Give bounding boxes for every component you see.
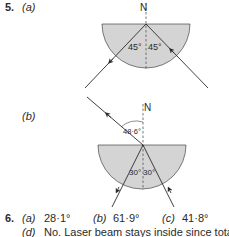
incident-angle-b: 48·6° bbox=[123, 127, 141, 136]
angle-right-a: 45° bbox=[148, 42, 162, 52]
answer-b-label: (b) bbox=[93, 212, 106, 224]
angle-right-b: 30° bbox=[143, 168, 155, 177]
normal-label-a: N bbox=[140, 2, 147, 13]
answer-c-value: 41·8° bbox=[182, 212, 208, 224]
answer-b-value: 61·9° bbox=[113, 212, 139, 224]
arrow-up-left-icon bbox=[107, 114, 111, 118]
angle-left-a: 45° bbox=[128, 42, 142, 52]
answer-a-value: 28·1° bbox=[44, 212, 70, 224]
ray-diagrams: N 45° 45° N 48·6° 30° 30° bbox=[0, 0, 229, 237]
diagram-a: N 45° 45° bbox=[85, 2, 208, 88]
question-6-number: 6. bbox=[5, 212, 14, 224]
semicircle-glass-block-b bbox=[98, 145, 186, 189]
normal-label-b: N bbox=[144, 102, 151, 113]
arrow-down-left-icon bbox=[117, 187, 119, 191]
answer-a-label: (a) bbox=[22, 212, 35, 224]
answer-d-label: (d) bbox=[22, 226, 35, 237]
answer-c-label: (c) bbox=[162, 212, 175, 224]
diagram-b: N 48·6° 30° 30° bbox=[87, 97, 186, 207]
arrow-down-left-icon bbox=[110, 59, 113, 62]
arrow-up-left-icon bbox=[169, 189, 171, 193]
angle-left-b: 30° bbox=[129, 168, 141, 177]
answer-d-text: No. Laser beam stays inside since total bbox=[44, 226, 229, 237]
